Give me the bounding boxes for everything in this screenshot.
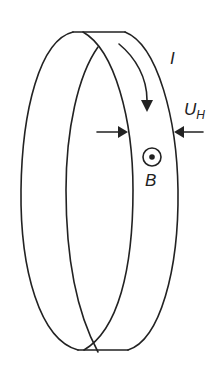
ring-inner-left-edge	[66, 47, 98, 352]
ring-front-right-edge	[83, 32, 133, 350]
hall-effect-ring-diagram: I UH B	[0, 0, 223, 382]
hall-voltage-main: U	[184, 100, 197, 119]
magnetic-field-label: B	[145, 171, 156, 190]
current-label: I	[170, 49, 175, 68]
hall-arrowhead-right	[174, 126, 184, 138]
ring-outer-left-edge	[21, 32, 78, 350]
current-direction-arrow	[119, 44, 147, 100]
hall-voltage-label: UH	[184, 100, 205, 122]
hall-arrowhead-left	[118, 126, 128, 138]
magnetic-field-dot	[149, 154, 155, 160]
current-arrowhead	[141, 100, 153, 112]
hall-voltage-subscript: H	[196, 108, 205, 122]
